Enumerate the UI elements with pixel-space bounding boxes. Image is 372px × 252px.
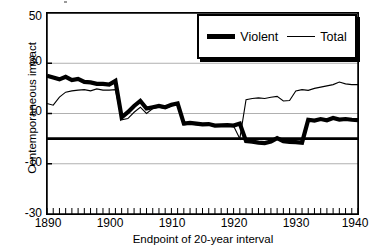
series-layer [47, 76, 358, 143]
chart-figure: Contemporaneous impact 50 30 10 -10 -30 … [0, 0, 372, 252]
x-tick-1930: 1930 [276, 216, 316, 230]
legend-item-violent: Violent [207, 31, 278, 43]
x-tick-1910: 1910 [152, 216, 192, 230]
gridlines [47, 63, 358, 164]
legend-swatch-total-icon [287, 36, 315, 37]
y-tick-30: 30 [12, 55, 42, 67]
y-tick-50: 50 [12, 10, 42, 22]
series-line-total [47, 82, 358, 139]
x-tick-1920: 1920 [214, 216, 254, 230]
x-tick-1900: 1900 [90, 216, 130, 230]
legend-item-total: Total [287, 31, 346, 43]
y-axis-tick-labels: 50 30 10 -10 -30 [6, 0, 42, 252]
chart-legend: Violent Total [197, 14, 357, 59]
legend-swatch-violent-icon [207, 34, 235, 39]
x-tick-1890: 1890 [28, 216, 68, 230]
series-line-violent [47, 76, 358, 143]
legend-label-total: Total [320, 31, 346, 43]
x-axis-title: Endpoint of 20-year interval [46, 233, 360, 245]
y-tick-10: 10 [12, 105, 42, 117]
y-tick-neg10: -10 [12, 156, 42, 168]
legend-label-violent: Violent [240, 31, 278, 43]
x-axis-tick-labels: 1890 1900 1910 1920 1930 1940 [0, 216, 372, 232]
x-tick-1940: 1940 [335, 216, 372, 230]
image-artifact-speck [64, 1, 67, 3]
